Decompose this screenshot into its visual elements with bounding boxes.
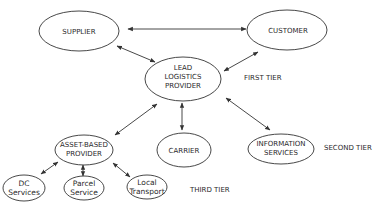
customer-label: CUSTOMER [268, 27, 308, 35]
supplier-label: SUPPLIER [62, 28, 95, 36]
edge-asset-dc [41, 162, 58, 174]
parcel-label-line2: Service [70, 188, 98, 197]
info-label-line2: SERVICES [264, 149, 299, 157]
carrier-label: CARRIER [169, 147, 200, 155]
lead-label-line2: LOGISTICS [165, 73, 202, 81]
local-label-line1: Local [137, 178, 156, 187]
node-information-services: INFORMATION SERVICES [248, 134, 314, 164]
node-asset-based-provider: ASSET-BASED PROVIDER [55, 135, 113, 165]
lead-label-line3: PROVIDER [165, 82, 201, 90]
asset-label-line2: PROVIDER [66, 150, 102, 158]
node-dc-services: DC Services [3, 175, 45, 201]
edge-lead-asset [115, 104, 157, 135]
first-tier-label: FIRST TIER [244, 74, 282, 82]
dc-label-line2: Services [8, 188, 40, 197]
edge-supplier-lead [117, 46, 155, 62]
info-label-line1: INFORMATION [256, 140, 305, 148]
edge-customer-lead [224, 52, 258, 71]
edge-lead-info [226, 98, 270, 130]
edge-asset-local [113, 163, 130, 177]
lead-label-line1: LEAD [174, 64, 193, 72]
local-label-line2: Transport [128, 187, 164, 196]
node-lead-logistics-provider: LEAD LOGISTICS PROVIDER [145, 57, 221, 101]
node-carrier: CARRIER [157, 133, 211, 167]
third-tier-label: THIRD TIER [189, 186, 230, 194]
parcel-label-line1: Parcel [73, 179, 96, 188]
node-local-transport: Local Transport [127, 175, 167, 199]
node-supplier: SUPPLIER [39, 11, 119, 51]
node-customer: CUSTOMER [247, 10, 327, 50]
node-parcel-service: Parcel Service [64, 176, 104, 200]
asset-label-line1: ASSET-BASED [60, 141, 108, 149]
second-tier-label: SECOND TIER [324, 144, 372, 152]
logistics-tier-diagram: SUPPLIER CUSTOMER LEAD LOGISTICS PROVIDE… [0, 0, 379, 212]
dc-label-line1: DC [18, 179, 29, 188]
